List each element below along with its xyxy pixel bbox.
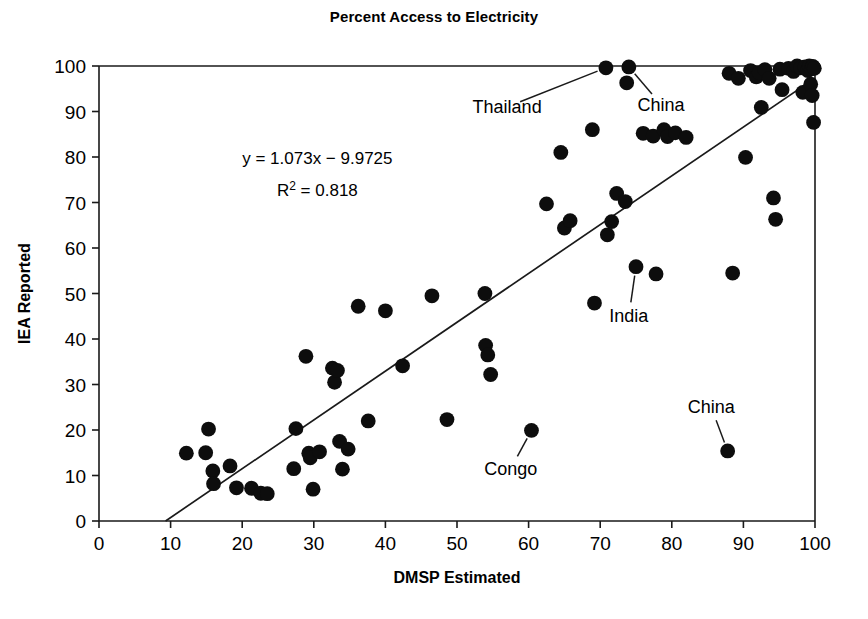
- y-tick-label-10: 10: [65, 466, 86, 487]
- regression-equation: y = 1.073x − 9.9725: [242, 149, 392, 168]
- data-point: [306, 482, 321, 497]
- x-axis-title: DMSP Estimated: [394, 569, 521, 586]
- data-point: [478, 286, 493, 301]
- x-tick-label-10: 10: [160, 533, 181, 554]
- annotation-label-china: China: [638, 95, 686, 115]
- axes-group: 0102030405060708090100010203040506070809…: [54, 56, 831, 554]
- trend-line-group: [166, 78, 815, 521]
- data-point: [198, 445, 213, 460]
- y-tick-label-0: 0: [75, 511, 86, 532]
- annotation-label-congo: Congo: [484, 459, 537, 479]
- x-tick-label-0: 0: [94, 533, 105, 554]
- data-point: [679, 130, 694, 145]
- data-point: [524, 423, 539, 438]
- data-point: [440, 412, 455, 427]
- data-point: [330, 363, 345, 378]
- data-point: [599, 60, 614, 75]
- data-point: [378, 303, 393, 318]
- data-point: [539, 196, 554, 211]
- y-tick-label-20: 20: [65, 420, 86, 441]
- data-point: [483, 367, 498, 382]
- x-tick-label-50: 50: [446, 533, 467, 554]
- y-tick-label-60: 60: [65, 238, 86, 259]
- data-point: [480, 348, 495, 363]
- data-point: [649, 267, 664, 282]
- data-point: [621, 60, 636, 75]
- data-point: [720, 444, 735, 459]
- annotation-leader-line: [517, 438, 527, 456]
- data-point: [619, 75, 634, 90]
- x-tick-label-60: 60: [518, 533, 539, 554]
- data-points-group: [179, 59, 822, 502]
- data-point: [768, 212, 783, 227]
- y-tick-label-70: 70: [65, 193, 86, 214]
- trend-line: [166, 78, 815, 521]
- data-point: [341, 442, 356, 457]
- data-point: [754, 100, 769, 115]
- y-tick-label-100: 100: [54, 56, 86, 77]
- x-tick-label-70: 70: [590, 533, 611, 554]
- annotation-leader-line: [631, 276, 635, 303]
- data-point: [775, 82, 790, 97]
- data-point: [604, 214, 619, 229]
- y-tick-label-40: 40: [65, 329, 86, 350]
- data-point: [766, 191, 781, 206]
- data-point: [206, 476, 221, 491]
- annotation-leader-line: [635, 74, 652, 94]
- data-point: [563, 213, 578, 228]
- data-point: [629, 259, 644, 274]
- x-tick-label-80: 80: [661, 533, 682, 554]
- data-point: [229, 480, 244, 495]
- data-point: [289, 421, 304, 436]
- data-point: [299, 349, 314, 364]
- data-point: [260, 486, 275, 501]
- x-tick-label-30: 30: [303, 533, 324, 554]
- y-tick-label-30: 30: [65, 375, 86, 396]
- annotations-group: ThailandChinaIndiaCongoChina: [473, 71, 736, 479]
- scatter-plot: 0102030405060708090100010203040506070809…: [0, 0, 868, 619]
- data-point: [738, 150, 753, 165]
- data-point: [205, 464, 220, 479]
- r-squared-value: R2 = 0.818: [277, 179, 358, 200]
- data-point: [805, 88, 820, 103]
- data-point: [286, 461, 301, 476]
- data-point: [395, 358, 410, 373]
- y-axis-title: IEA Reported: [16, 243, 33, 344]
- data-point: [179, 446, 194, 461]
- data-point: [351, 299, 366, 314]
- x-tick-label-90: 90: [733, 533, 754, 554]
- annotation-leader-line: [716, 420, 724, 442]
- x-tick-label-100: 100: [799, 533, 831, 554]
- x-tick-label-40: 40: [375, 533, 396, 554]
- y-tick-label-90: 90: [65, 102, 86, 123]
- y-tick-label-80: 80: [65, 147, 86, 168]
- annotation-label-india: India: [609, 306, 649, 326]
- data-point: [725, 266, 740, 281]
- data-point: [201, 422, 216, 437]
- x-tick-label-20: 20: [232, 533, 253, 554]
- y-tick-label-50: 50: [65, 284, 86, 305]
- data-point: [312, 444, 327, 459]
- data-point: [425, 288, 440, 303]
- data-point: [361, 414, 376, 429]
- data-point: [585, 122, 600, 137]
- data-point: [600, 227, 615, 242]
- data-point: [807, 61, 822, 76]
- data-point: [731, 71, 746, 86]
- annotation-label-china: China: [688, 397, 736, 417]
- figure-container: Percent Access to Electricity 0102030405…: [0, 0, 868, 619]
- data-point: [223, 459, 238, 474]
- data-point: [587, 296, 602, 311]
- annotation-label-thailand: Thailand: [473, 97, 542, 117]
- data-point: [806, 115, 821, 130]
- data-point: [553, 145, 568, 160]
- data-point: [335, 462, 350, 477]
- data-point: [618, 194, 633, 209]
- equation-group: y = 1.073x − 9.9725R2 = 0.818: [242, 149, 392, 200]
